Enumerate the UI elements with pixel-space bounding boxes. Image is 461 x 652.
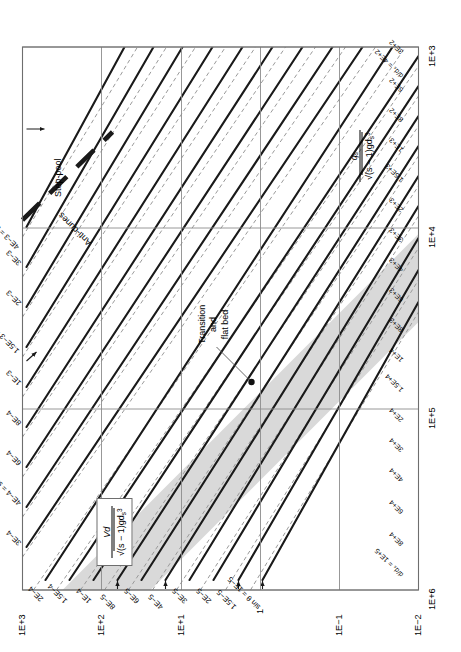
ytick-1e2: 1E+2 [95,614,105,636]
region-label-step-pool: Step-pool [52,158,63,197]
chart-figure: 1E−2 1E−1 1 1E+1 1E+2 1E+3 1E+6 1E+5 1E+… [0,0,461,652]
ytick-1e-2: 1E−2 [412,614,422,636]
transition-line2: and [207,317,217,332]
ytick-1e-1: 1E−1 [333,614,343,636]
xtick-1e3: 1E+3 [426,45,436,67]
xtick-1e4: 1E+4 [426,226,436,248]
y-axis-title-denominator: √(s − 1)gds3 [359,130,375,182]
y-axis-title: qs √(s − 1)gds3 [348,130,375,182]
ytick-1e3: 1E+3 [16,614,26,636]
x-axis-title-denominator: √(s − 1)gds3 [111,506,127,558]
xtick-1e5: 1E+5 [426,407,436,429]
region-label-transition-flat-bed: Transition and flat bed [196,305,230,344]
transition-line1: Transition [196,305,206,344]
xtick-1e6: 1E+6 [426,588,436,610]
transition-line3: flat bed [219,310,229,340]
x-axis-title: Vd √(s − 1)gds3 [96,498,132,566]
chart-figure-rotated: 1E−2 1E−1 1 1E+1 1E+2 1E+3 1E+6 1E+5 1E+… [0,0,461,652]
ytick-1e1: 1E+1 [175,614,185,636]
y-axis-title-numerator: qs [348,130,359,182]
x-axis-title-numerator: Vd [101,506,111,558]
